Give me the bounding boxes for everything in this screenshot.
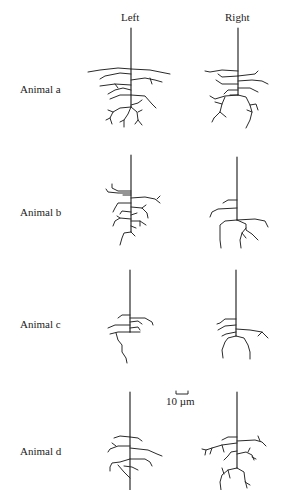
neuron-a-left <box>88 28 170 127</box>
neuron-c-left <box>108 270 153 363</box>
neuron-d-right <box>202 392 266 490</box>
neuron-tracings <box>0 0 291 490</box>
neuron-b-right <box>210 157 268 248</box>
neuron-c-right <box>217 270 268 359</box>
neuron-d-left <box>108 392 162 490</box>
neuron-b-left <box>106 155 160 245</box>
neuron-a-right <box>205 28 268 128</box>
scale-bar <box>176 391 188 394</box>
